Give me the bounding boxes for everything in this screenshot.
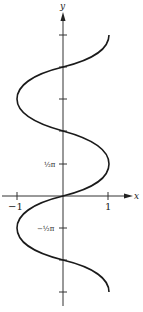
x-tick-label-one: 1 [105, 201, 111, 212]
x-axis-arrow-icon [124, 194, 133, 199]
y-tick-label-neg-half-pi: −½π [37, 225, 55, 233]
y-axis-arrow-icon [61, 12, 66, 21]
y-tick-label-half-pi: ½π [44, 161, 56, 169]
y-axis-label: y [59, 1, 66, 11]
chart-canvas: y x −1 1 ½π −½π [0, 0, 143, 312]
x-tick-label-neg-one: −1 [8, 201, 23, 212]
x-axis-label: x [134, 191, 139, 201]
